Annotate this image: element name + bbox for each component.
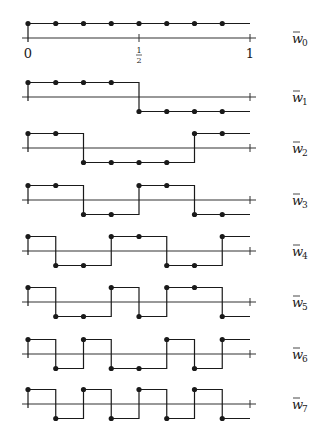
sample-dot: [164, 416, 169, 421]
sample-dot: [192, 285, 197, 290]
row-label-subscript: 5: [302, 302, 308, 312]
sample-dot: [109, 416, 114, 421]
sample-dot: [53, 416, 58, 421]
sample-dot: [53, 80, 58, 85]
tick-label: 0: [24, 46, 32, 61]
sample-dot: [164, 263, 169, 268]
sample-dot: [25, 80, 30, 85]
walsh-row-5: w5: [22, 285, 308, 319]
sample-dot: [81, 212, 86, 217]
sample-dot: [25, 183, 30, 188]
sample-dot: [81, 160, 86, 165]
walsh-row-1: w1: [22, 80, 308, 114]
sample-dot: [53, 183, 58, 188]
row-label-subscript: 6: [302, 354, 308, 364]
sample-dot: [164, 21, 169, 26]
sample-dot: [164, 337, 169, 342]
row-label-subscript: 4: [302, 251, 308, 261]
sample-dot: [220, 416, 225, 421]
sample-dot: [136, 387, 141, 392]
sample-dot: [220, 337, 225, 342]
walsh-functions-figure: w0w1w2w3w4w5w6w70121: [0, 0, 329, 442]
sample-dot: [25, 337, 30, 342]
sample-dot: [109, 234, 114, 239]
sample-dot: [109, 80, 114, 85]
sample-dot: [136, 234, 141, 239]
sample-dot: [192, 387, 197, 392]
walsh-row-3: w3: [22, 183, 308, 217]
sample-dot: [25, 234, 30, 239]
walsh-plot: w0w1w2w3w4w5w6w70121: [0, 0, 329, 442]
sample-dot: [53, 314, 58, 319]
sample-dot: [25, 131, 30, 136]
sample-dot: [81, 314, 86, 319]
row-label-subscript: 3: [302, 200, 308, 210]
sample-dot: [81, 387, 86, 392]
sample-dot: [109, 21, 114, 26]
sample-dot: [136, 109, 141, 114]
sample-dot: [136, 183, 141, 188]
row-label-subscript: 1: [302, 97, 308, 107]
sample-dot: [81, 80, 86, 85]
tick-label: 1: [246, 46, 254, 61]
sample-dot: [109, 212, 114, 217]
sample-dot: [109, 285, 114, 290]
sample-dot: [164, 160, 169, 165]
walsh-row-4: w4: [22, 234, 308, 268]
sample-dot: [220, 109, 225, 114]
sample-dot: [136, 160, 141, 165]
sample-dot: [136, 314, 141, 319]
sample-dot: [164, 285, 169, 290]
sample-dot: [136, 366, 141, 371]
tick-label-numerator: 1: [136, 46, 141, 55]
sample-dot: [25, 21, 30, 26]
sample-dot: [192, 366, 197, 371]
sample-dot: [192, 109, 197, 114]
sample-dot: [220, 314, 225, 319]
sample-dot: [220, 131, 225, 136]
walsh-row-0: w0: [22, 21, 308, 48]
walsh-row-7: w7: [22, 387, 308, 421]
row-label-subscript: 7: [302, 404, 308, 414]
sample-dot: [192, 212, 197, 217]
sample-dot: [53, 131, 58, 136]
sample-dot: [25, 285, 30, 290]
row-label-subscript: 2: [302, 148, 308, 158]
sample-dot: [81, 337, 86, 342]
sample-dot: [53, 263, 58, 268]
walsh-row-6: w6: [22, 337, 308, 371]
sample-dot: [164, 183, 169, 188]
sample-dot: [53, 366, 58, 371]
row-label-subscript: 0: [302, 38, 308, 48]
sample-dot: [220, 212, 225, 217]
sample-dot: [220, 234, 225, 239]
sample-dot: [220, 21, 225, 26]
sample-dot: [81, 263, 86, 268]
sample-dot: [53, 21, 58, 26]
sample-dot: [81, 21, 86, 26]
walsh-row-2: w2: [22, 131, 308, 165]
sample-dot: [164, 109, 169, 114]
sample-dot: [192, 21, 197, 26]
tick-label-denominator: 2: [136, 56, 141, 65]
sample-dot: [136, 21, 141, 26]
sample-dot: [109, 160, 114, 165]
sample-dot: [109, 366, 114, 371]
sample-dot: [25, 387, 30, 392]
sample-dot: [192, 263, 197, 268]
sample-dot: [192, 131, 197, 136]
